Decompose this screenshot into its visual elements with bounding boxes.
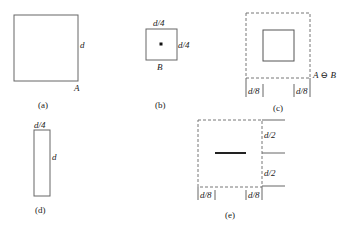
label-c-left-margin: d/8: [248, 86, 260, 96]
label-e-lower-half: d/2: [264, 168, 276, 178]
label-c-right-margin: d/8: [296, 86, 308, 96]
label-e-right-margin: d/8: [248, 190, 260, 200]
caption-e: (e): [225, 210, 235, 220]
caption-b: (b): [155, 100, 166, 110]
label-a-side: d: [80, 40, 85, 50]
label-a-set: A: [74, 83, 80, 93]
caption-d: (d): [35, 205, 46, 215]
label-e-upper-half: d/2: [264, 130, 276, 140]
label-b-top: d/4: [153, 18, 165, 28]
label-e-left-margin: d/8: [200, 190, 212, 200]
caption-c: (c): [273, 103, 283, 113]
erosion-result-square: [263, 30, 294, 61]
morphology-diagram: [0, 0, 346, 230]
label-d-top: d/4: [34, 120, 46, 130]
label-b-set: B: [157, 62, 163, 72]
caption-a: (a): [38, 100, 48, 110]
label-c-result: A ⊖ B: [313, 70, 336, 80]
origin-dot: [160, 43, 163, 46]
square-a: [14, 15, 78, 81]
label-b-side: d/4: [178, 40, 190, 50]
label-d-side: d: [52, 152, 57, 162]
dashed-square-c: [246, 13, 310, 78]
rectangle-d: [34, 130, 50, 196]
